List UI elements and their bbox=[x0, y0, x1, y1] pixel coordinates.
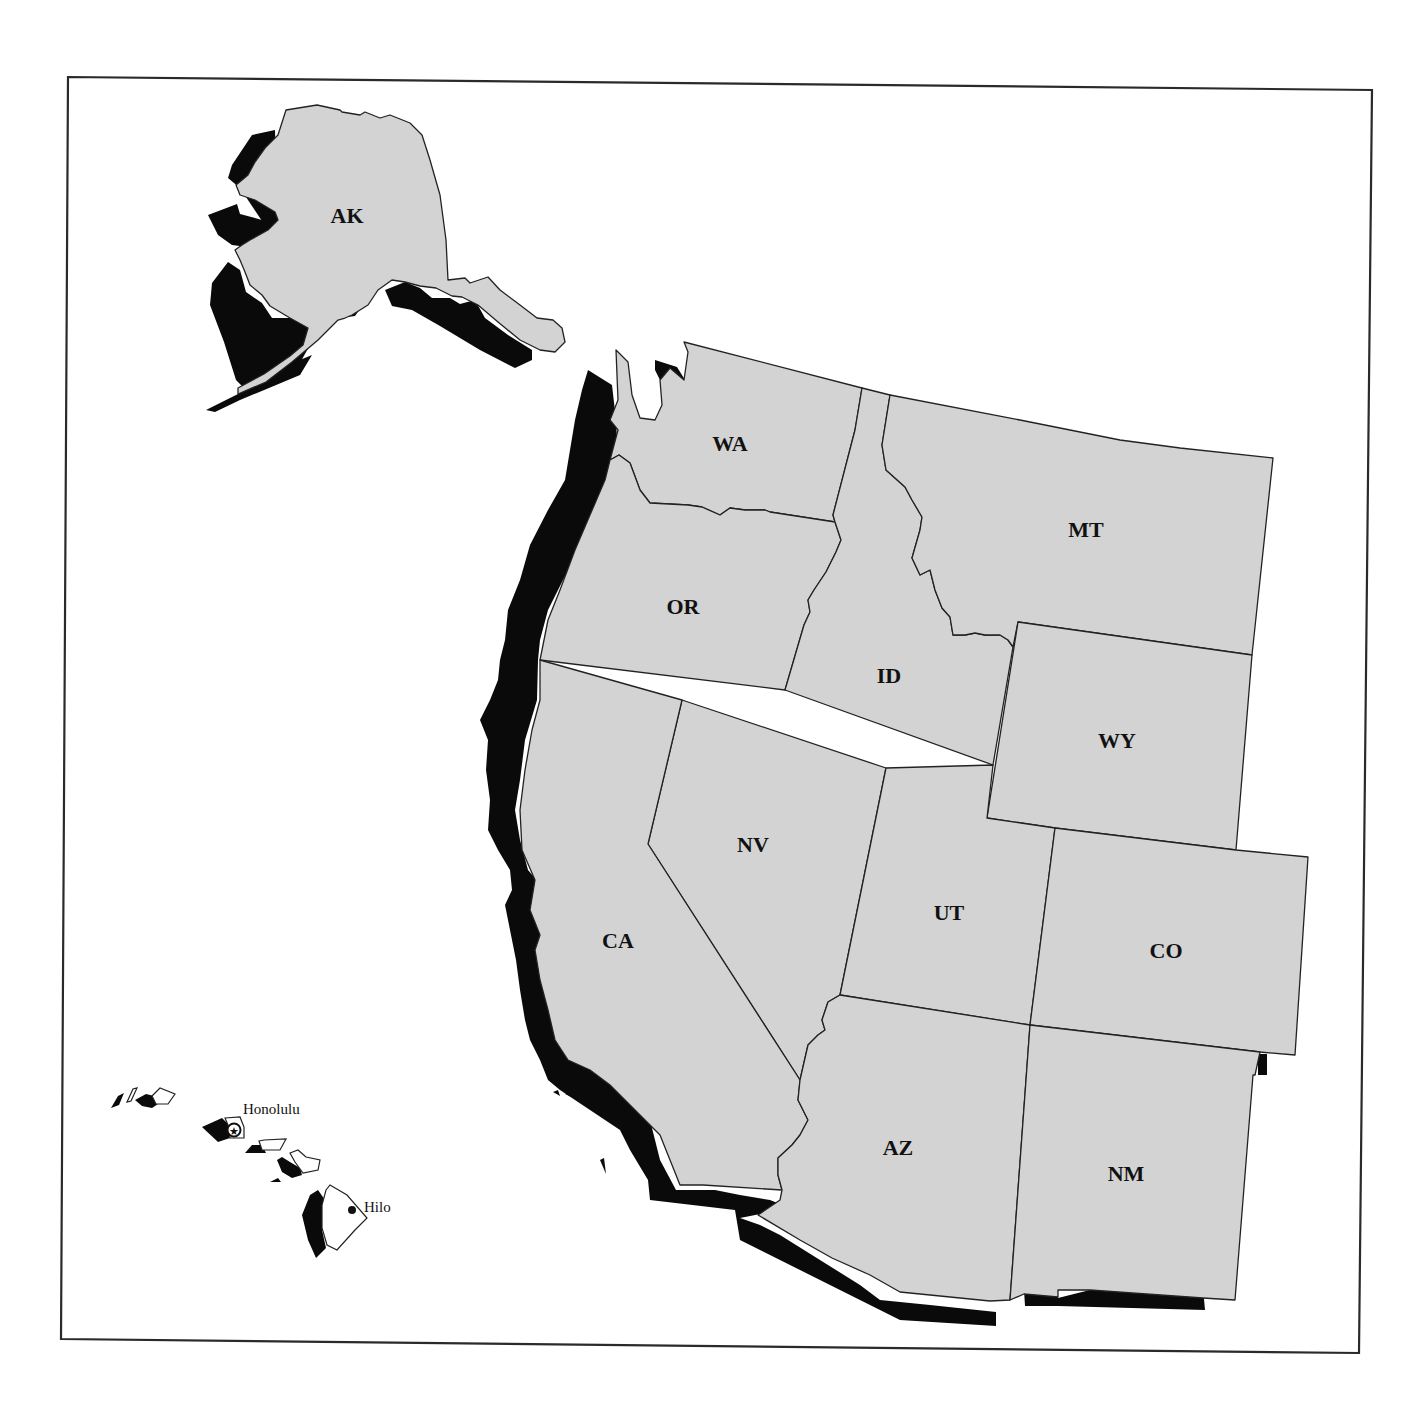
state-label-wa: WA bbox=[712, 431, 748, 456]
island-molokai bbox=[259, 1139, 286, 1150]
state-label-nm: NM bbox=[1108, 1161, 1145, 1186]
western-us-map: AK ★ Honolulu Hilo bbox=[0, 0, 1426, 1422]
hilo-marker-dot bbox=[348, 1206, 356, 1214]
state-label-id: ID bbox=[877, 663, 901, 688]
state-label-ca: CA bbox=[602, 928, 634, 953]
state-label-ut: UT bbox=[934, 900, 965, 925]
state-label-ak: AK bbox=[331, 203, 364, 228]
hawaii-shadow-oahu bbox=[202, 1118, 230, 1142]
alaska-group: AK bbox=[206, 105, 565, 412]
state-label-wy: WY bbox=[1098, 728, 1136, 753]
hawaii-group: ★ Honolulu Hilo bbox=[111, 1088, 391, 1258]
city-label-honolulu: Honolulu bbox=[243, 1101, 300, 1117]
star-icon: ★ bbox=[229, 1125, 239, 1138]
island-hawaii bbox=[322, 1185, 367, 1250]
state-label-or: OR bbox=[667, 594, 701, 619]
channel-island-3 bbox=[600, 1158, 606, 1174]
city-label-hilo: Hilo bbox=[364, 1199, 391, 1215]
hawaii-shadow-niihau bbox=[111, 1093, 124, 1108]
hawaii-shadow-kahoolawe bbox=[270, 1178, 281, 1182]
state-label-co: CO bbox=[1150, 938, 1183, 963]
channel-island-1 bbox=[553, 1090, 560, 1096]
state-label-az: AZ bbox=[883, 1135, 914, 1160]
state-label-nv: NV bbox=[737, 832, 769, 857]
island-kauai bbox=[152, 1088, 175, 1104]
state-label-mt: MT bbox=[1068, 517, 1104, 542]
